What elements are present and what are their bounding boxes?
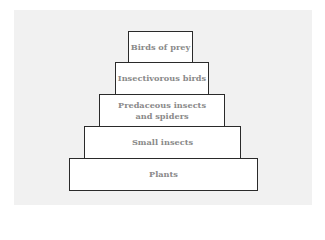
tier-predaceous-insects: Predaceous insects and spiders (99, 94, 225, 127)
tier-label: Birds of prey (131, 42, 190, 52)
tier-small-insects: Small insects (84, 126, 241, 159)
tier-insectivorous-birds: Insectivorous birds (115, 62, 209, 95)
tier-label: Plants (149, 169, 178, 179)
tier-label: Predaceous insects and spiders (112, 100, 212, 121)
tier-label: Insectivorous birds (118, 73, 206, 83)
tier-plants: Plants (69, 158, 258, 191)
tier-birds-of-prey: Birds of prey (128, 31, 193, 63)
tier-label: Small insects (132, 137, 193, 147)
